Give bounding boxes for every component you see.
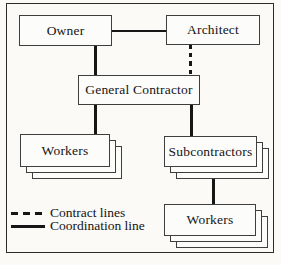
node-workers-bottom-label: Workers <box>187 212 234 228</box>
node-subcontractors: Subcontractors <box>164 136 257 167</box>
edge-general-contractor-workers <box>94 104 97 135</box>
node-subcontractors-label: Subcontractors <box>169 144 253 160</box>
node-architect: Architect <box>166 15 260 45</box>
node-owner: Owner <box>19 15 112 46</box>
edge-architect-general-contractor-dashed <box>189 44 192 76</box>
node-architect-label: Architect <box>187 22 239 38</box>
node-workers-bottom: Workers <box>164 204 256 236</box>
legend-coordination-label: Coordination line <box>50 219 145 233</box>
node-workers-left: Workers <box>20 134 110 167</box>
legend-solid-line-sample <box>11 225 45 228</box>
edge-owner-general-contractor <box>94 45 97 76</box>
node-workers-left-label: Workers <box>42 143 89 159</box>
figure-canvas: Owner Architect General Contractor Worke… <box>0 0 281 265</box>
edge-owner-architect <box>110 30 167 33</box>
node-workers-left-stack: Workers <box>20 134 110 167</box>
edge-general-contractor-subcontractors <box>190 104 193 137</box>
node-workers-bottom-stack: Workers <box>164 204 256 236</box>
legend-dashed-line-sample <box>11 212 45 215</box>
node-general-contractor: General Contractor <box>78 75 200 105</box>
node-subcontractors-stack: Subcontractors <box>164 136 257 167</box>
node-owner-label: Owner <box>47 23 85 39</box>
node-general-contractor-label: General Contractor <box>85 82 192 98</box>
